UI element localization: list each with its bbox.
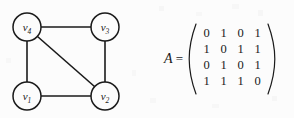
matrix-expression: A = 0 1 0 1 1 0 1 1 0 (150, 0, 294, 118)
matrix-cell: 1 (204, 43, 210, 56)
matrix-grid: 0 1 0 1 1 0 1 1 0 1 0 1 1 1 1 0 (197, 23, 267, 95)
matrix-cell: 1 (255, 43, 261, 56)
matrix-cell: 1 (238, 43, 244, 56)
matrix-cell: 1 (255, 59, 261, 72)
matrix-cell: 1 (221, 27, 227, 40)
right-parenthesis (267, 23, 276, 95)
matrix-name-label: A (164, 51, 173, 67)
graph-canvas: v4 v3 v1 (0, 0, 145, 118)
matrix-equation: A = 0 1 0 1 1 0 1 1 0 (150, 23, 276, 95)
matrix-cell: 1 (255, 27, 261, 40)
vertex-v1: v1 (13, 82, 41, 110)
edge-v4-v2 (38, 37, 95, 87)
matrix-cell: 0 (255, 75, 261, 88)
vertex-v4: v4 (13, 13, 41, 41)
vertex-v3: v3 (91, 13, 119, 41)
matrix-cell: 1 (221, 75, 227, 88)
matrix-body: 0 1 0 1 1 0 1 1 0 1 0 1 1 1 1 0 (188, 23, 276, 95)
graph-diagram: v4 v3 v1 (0, 0, 145, 118)
matrix-cell: 1 (238, 75, 244, 88)
matrix-cell: 0 (238, 59, 244, 72)
matrix-cell: 0 (204, 27, 210, 40)
matrix-cell: 0 (204, 59, 210, 72)
matrix-cell: 1 (221, 59, 227, 72)
adjacency-matrix-figure: v4 v3 v1 (0, 0, 294, 118)
graph-edges (27, 27, 105, 96)
vertex-v2: v2 (91, 82, 119, 110)
matrix-cell: 0 (238, 27, 244, 40)
matrix-cell: 0 (221, 43, 227, 56)
matrix-cell: 1 (204, 75, 210, 88)
equals-sign: = (176, 51, 183, 67)
left-parenthesis (188, 23, 197, 95)
